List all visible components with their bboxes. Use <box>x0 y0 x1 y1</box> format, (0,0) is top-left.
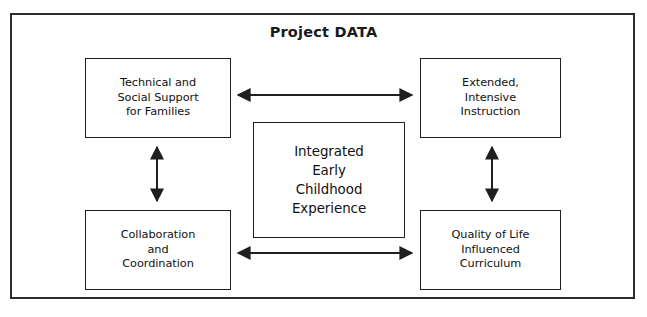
node-integrated-early-childhood-experience[interactable]: Integrated Early Childhood Experience <box>253 122 405 238</box>
node-technical-and-social-support[interactable]: Technical and Social Support for Familie… <box>85 58 231 138</box>
node-label: Collaboration and Coordination <box>121 228 196 273</box>
node-extended-intensive-instruction[interactable]: Extended, Intensive Instruction <box>420 58 561 138</box>
node-label: Integrated Early Childhood Experience <box>292 142 366 218</box>
node-collaboration-and-coordination[interactable]: Collaboration and Coordination <box>85 210 231 290</box>
node-label: Quality of Life Influenced Curriculum <box>451 228 529 273</box>
node-label: Technical and Social Support for Familie… <box>117 76 198 121</box>
node-quality-of-life-influenced-curriculum[interactable]: Quality of Life Influenced Curriculum <box>420 210 561 290</box>
page-title: Project DATA <box>0 24 647 40</box>
node-label: Extended, Intensive Instruction <box>461 76 521 121</box>
diagram-canvas: Project DATA Technical and Social Suppor… <box>0 0 647 317</box>
